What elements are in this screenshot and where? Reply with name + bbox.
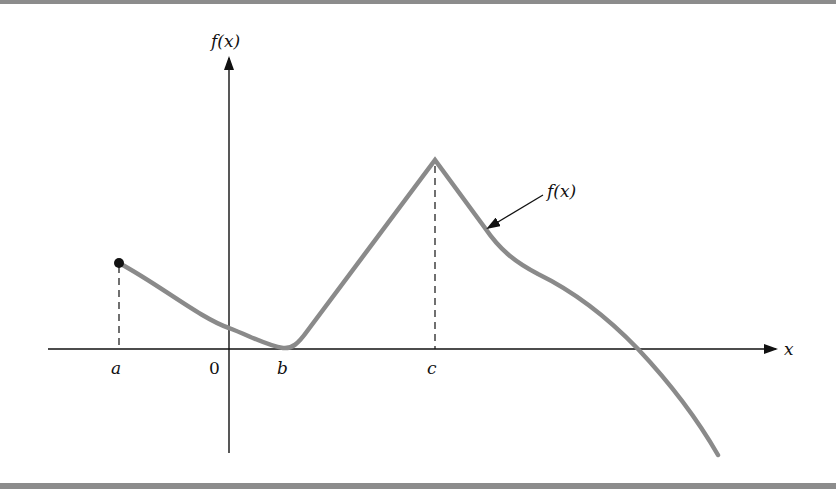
tick-label-a: a <box>111 358 121 378</box>
tick-label-b: b <box>277 358 288 378</box>
function-graph: f(x) x f(x) a 0 b c <box>0 0 836 489</box>
function-curve <box>119 160 718 455</box>
tick-label-zero: 0 <box>209 358 220 378</box>
x-axis-label: x <box>784 339 794 359</box>
y-axis-label: f(x) <box>209 31 240 51</box>
curve-label: f(x) <box>545 181 576 201</box>
tick-label-c: c <box>427 358 437 378</box>
curve-pointer-arrow <box>488 195 543 228</box>
endpoint-dot-a <box>114 258 124 268</box>
